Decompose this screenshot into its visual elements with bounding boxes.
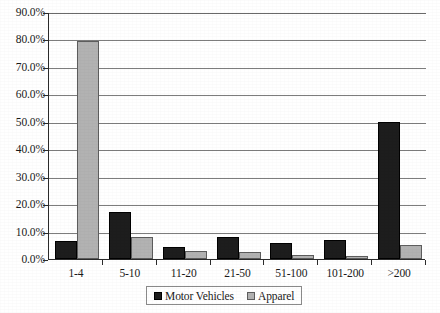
x-axis-tick-mark [156, 260, 157, 265]
y-axis-tick-mark [43, 40, 48, 41]
y-axis-tick-mark [43, 68, 48, 69]
y-axis-tick-mark [43, 260, 48, 261]
bar-apparel [346, 256, 368, 259]
bar-group [324, 12, 368, 259]
bar-motor-vehicles [217, 237, 239, 259]
bar-apparel [239, 252, 261, 259]
y-axis-tick-label: 30.0% [0, 172, 45, 184]
y-axis-tick-label: 20.0% [0, 199, 45, 211]
legend-label: Motor Vehicles [165, 290, 234, 302]
bar-group [270, 12, 314, 259]
x-axis-tick-mark [317, 260, 318, 265]
bar-motor-vehicles [270, 243, 292, 259]
bar-apparel [400, 245, 422, 259]
y-axis-tick-mark [43, 205, 48, 206]
y-axis-tick-label: 0.0% [0, 254, 45, 266]
bar-motor-vehicles [55, 241, 77, 259]
x-axis-tick-mark [425, 260, 426, 265]
x-axis-tick-mark [210, 260, 211, 265]
bar-group [163, 12, 207, 259]
x-axis-tick-mark [102, 260, 103, 265]
x-axis-tick-label: >200 [359, 267, 439, 279]
bar-group [109, 12, 153, 259]
plot-area [48, 13, 425, 260]
y-axis-tick-label: 80.0% [0, 34, 45, 46]
bar-motor-vehicles [378, 122, 400, 259]
x-axis-tick-mark [263, 260, 264, 265]
bar-group [217, 12, 261, 259]
y-axis-tick-mark [43, 95, 48, 96]
y-axis-tick-mark [43, 13, 48, 14]
bar-group [55, 12, 99, 259]
y-axis-tick-label: 40.0% [0, 144, 45, 156]
y-axis-tick-label: 10.0% [0, 227, 45, 239]
legend-entry: Apparel [247, 290, 294, 302]
bar-motor-vehicles [109, 212, 131, 259]
legend-entry: Motor Vehicles [154, 290, 234, 302]
bar-apparel [131, 237, 153, 259]
y-axis-tick-label: 60.0% [0, 89, 45, 101]
bar-apparel [185, 251, 207, 259]
bar-apparel [292, 255, 314, 259]
bar-chart: 0.0%10.0%20.0%30.0%40.0%50.0%60.0%70.0%8… [0, 0, 440, 313]
bar-apparel [77, 41, 99, 259]
chart-legend: Motor VehiclesApparel [146, 286, 302, 305]
y-axis-tick-mark [43, 123, 48, 124]
y-axis-tick-label: 90.0% [0, 7, 45, 19]
legend-swatch-icon [247, 292, 255, 300]
bar-motor-vehicles [324, 240, 346, 259]
bar-motor-vehicles [163, 247, 185, 259]
y-axis-tick-mark [43, 233, 48, 234]
y-axis-tick-label: 50.0% [0, 117, 45, 129]
y-axis-tick-mark [43, 150, 48, 151]
bar-group [378, 12, 422, 259]
y-axis-tick-mark [43, 178, 48, 179]
y-axis-tick-label: 70.0% [0, 62, 45, 74]
x-axis-tick-mark [371, 260, 372, 265]
legend-label: Apparel [258, 290, 294, 302]
legend-swatch-icon [154, 292, 162, 300]
